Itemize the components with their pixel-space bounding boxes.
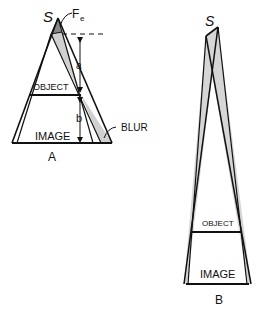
source-label-b: S — [205, 13, 215, 29]
geometric-unsharpness-diagram: S F e a OBJECT b IMAGE BLUR A S OBJECT I… — [0, 0, 264, 318]
distance-b-label: b — [76, 112, 82, 124]
focal-spot-label-a: F — [72, 7, 79, 21]
image-label-b: IMAGE — [200, 268, 235, 280]
caption-b: B — [215, 293, 223, 307]
blur-label: BLUR — [121, 122, 148, 133]
object-label-b: OBJECT — [202, 219, 234, 228]
caption-a: A — [48, 150, 56, 164]
panel-a: S F e a OBJECT b IMAGE BLUR A — [12, 7, 148, 164]
object-label-a: OBJECT — [33, 82, 69, 92]
image-label-a: IMAGE — [35, 130, 70, 142]
source-label-a: S — [43, 8, 53, 25]
distance-a-label: a — [76, 60, 82, 71]
focal-spot-subscript-a: e — [80, 14, 85, 23]
panel-b: S OBJECT IMAGE B — [184, 13, 251, 307]
